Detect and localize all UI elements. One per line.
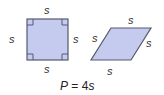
square-label-top: s (44, 4, 50, 16)
perimeter-formula: P = 4s (60, 79, 94, 93)
square-label-right: s (73, 33, 79, 45)
rhombus-label-left: s (92, 32, 98, 44)
square-label-left: s (9, 33, 15, 45)
perimeter-diagram: s s s s s s s s P = 4s (0, 0, 164, 95)
rhombus-label-bottom: s (107, 65, 113, 77)
rhombus-label-top: s (128, 14, 134, 26)
rhombus-label-right: s (146, 37, 152, 49)
rhombus-shape (91, 28, 151, 60)
square-label-bottom: s (44, 63, 50, 75)
square-shape (27, 19, 68, 60)
